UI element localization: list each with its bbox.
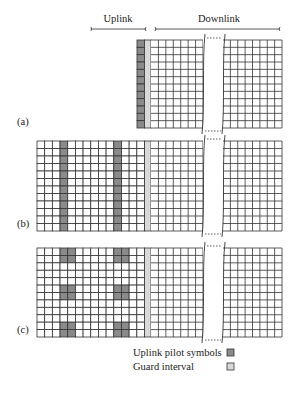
pilot-cell	[68, 255, 76, 262]
uplink-cell	[52, 156, 60, 164]
uplink-cell	[98, 285, 106, 292]
uplink-cell	[83, 201, 91, 209]
uplink-cell	[129, 270, 137, 277]
pilot-cell	[114, 164, 122, 172]
uplink-cell	[129, 224, 137, 232]
uplink-cell	[98, 307, 106, 314]
pilot-cell	[60, 194, 68, 202]
uplink-cell	[137, 315, 145, 322]
uplink-cell	[121, 194, 129, 202]
pilot-cell	[60, 224, 68, 232]
pilot-cell	[121, 293, 129, 300]
uplink-cell	[91, 278, 99, 285]
uplink-cell	[137, 149, 145, 157]
uplink-cell	[60, 278, 68, 285]
uplink-cell	[137, 330, 145, 337]
uplink-cell	[91, 141, 99, 149]
pilot-cell	[121, 285, 129, 292]
uplink-cell	[98, 194, 106, 202]
uplink-label: Uplink	[103, 13, 133, 24]
uplink-cell	[91, 285, 99, 292]
uplink-cell	[106, 300, 114, 307]
pilot-cell	[68, 248, 76, 255]
uplink-cell	[75, 293, 83, 300]
pilot-cell	[114, 322, 122, 329]
uplink-cell	[129, 293, 137, 300]
uplink-cell	[91, 186, 99, 194]
uplink-cell	[91, 263, 99, 270]
uplink-cell	[52, 186, 60, 194]
uplink-cell	[45, 293, 53, 300]
uplink-cell	[106, 209, 114, 217]
uplink-cell	[91, 300, 99, 307]
uplink-cell	[75, 149, 83, 157]
pilot-cell	[60, 186, 68, 194]
uplink-cell	[106, 201, 114, 209]
pilot-cell	[121, 322, 129, 329]
uplink-cell	[45, 194, 53, 202]
uplink-cell	[45, 209, 53, 217]
pilot-cell	[60, 330, 68, 337]
uplink-cell	[37, 156, 45, 164]
uplink-cell	[37, 293, 45, 300]
pilot-cell	[68, 322, 76, 329]
downlink-bracket: Downlink	[155, 13, 280, 31]
uplink-cell	[137, 156, 145, 164]
pilot-cell	[68, 330, 76, 337]
uplink-cell	[37, 322, 45, 329]
pilot-cell	[137, 40, 145, 47]
legend: Uplink pilot symbols Guard interval	[133, 347, 234, 372]
uplink-cell	[91, 171, 99, 179]
uplink-cell	[75, 270, 83, 277]
uplink-cell	[75, 322, 83, 329]
uplink-cell	[106, 194, 114, 202]
uplink-cell	[121, 186, 129, 194]
uplink-cell	[68, 194, 76, 202]
uplink-cell	[106, 149, 114, 157]
uplink-cell	[75, 224, 83, 232]
guard-interval	[145, 141, 152, 231]
uplink-cell	[114, 307, 122, 314]
uplink-cell	[121, 141, 129, 149]
uplink-cell	[37, 171, 45, 179]
pilot-cell	[68, 293, 76, 300]
uplink-cell	[129, 149, 137, 157]
uplink-cell	[68, 300, 76, 307]
uplink-bracket: Uplink	[91, 13, 146, 31]
uplink-cell	[121, 224, 129, 232]
uplink-cell	[137, 270, 145, 277]
uplink-cell	[83, 248, 91, 255]
pilot-cell	[114, 141, 122, 149]
pilot-cell	[121, 330, 129, 337]
pilot-cell	[60, 171, 68, 179]
uplink-cell	[129, 248, 137, 255]
pilot-cell	[137, 55, 145, 62]
uplink-cell	[83, 194, 91, 202]
uplink-cell	[137, 285, 145, 292]
uplink-cell	[52, 263, 60, 270]
uplink-cell	[106, 270, 114, 277]
uplink-cell	[83, 224, 91, 232]
uplink-cell	[129, 307, 137, 314]
uplink-cell	[37, 149, 45, 157]
uplink-cell	[45, 263, 53, 270]
pilot-cell	[137, 84, 145, 91]
panel-c: (c)	[17, 242, 282, 343]
uplink-cell	[91, 149, 99, 157]
uplink-cell	[129, 216, 137, 224]
uplink-cell	[52, 171, 60, 179]
legend-swatch-guard	[227, 363, 234, 370]
uplink-cell	[137, 179, 145, 187]
uplink-cell	[106, 171, 114, 179]
uplink-cell	[106, 179, 114, 187]
uplink-cell	[37, 285, 45, 292]
uplink-cell	[129, 300, 137, 307]
uplink-cell	[68, 201, 76, 209]
pilot-cell	[137, 91, 145, 98]
uplink-cell	[45, 285, 53, 292]
downlink-grid-right	[223, 248, 282, 337]
uplink-cell	[137, 224, 145, 232]
uplink-cell	[129, 171, 137, 179]
uplink-cell	[121, 263, 129, 270]
pilot-cell	[121, 248, 129, 255]
